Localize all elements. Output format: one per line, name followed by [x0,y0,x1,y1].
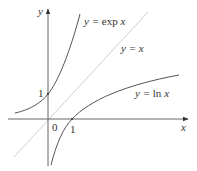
tick-label-y1: 1 [38,87,44,99]
identity-line [14,12,148,157]
chart-canvas: y x y = exp x y = x y = ln x 1 0 1 [0,0,197,171]
y-axis-label: y [37,5,43,17]
tick-label-x1: 1 [70,123,76,135]
x-axis-label: x [180,121,186,133]
ln-label: y = ln x [134,87,169,99]
point-0-1 [47,93,49,95]
identity-label: y = x [120,42,144,54]
exp-label: y = exp x [83,15,125,27]
point-1-0 [71,118,73,120]
tick-label-origin: 0 [52,121,58,133]
